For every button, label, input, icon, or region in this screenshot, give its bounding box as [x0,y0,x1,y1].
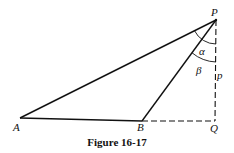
point-P-marker [215,19,217,21]
label-Q: Q [210,122,218,134]
segment-BP [142,20,216,121]
figure-caption: Figure 16-17 [87,136,147,148]
label-p: p [216,69,223,81]
segment-AP [20,20,216,118]
triangle-diagram: P α β p A B Q Figure 16-17 [0,0,234,153]
segment-PQ [215,20,216,121]
label-beta: β [195,64,202,76]
segment-AB [20,118,142,121]
label-B: B [137,121,144,133]
label-A: A [12,121,20,133]
label-P: P [210,6,218,18]
angle-alpha-arc [195,31,217,44]
label-alpha: α [199,45,205,57]
